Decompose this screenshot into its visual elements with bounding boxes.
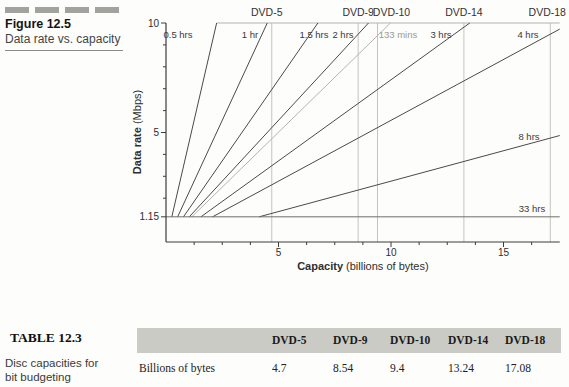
duration-label: 4 hrs bbox=[517, 29, 538, 40]
duration-label: 33 hrs bbox=[519, 203, 546, 214]
x-tick-label: 15 bbox=[498, 247, 510, 258]
duration-label: 2 hrs bbox=[332, 29, 353, 40]
y-tick-label: 1.15 bbox=[140, 211, 160, 222]
dvd-label: DVD-18 bbox=[529, 6, 567, 18]
duration-label: 3 hrs bbox=[430, 29, 451, 40]
table-cell: 13.24 bbox=[448, 362, 474, 374]
duration-label: 1.5 hrs bbox=[299, 29, 328, 40]
x-tick-label: 5 bbox=[276, 247, 282, 258]
table-column-header: DVD-9 bbox=[333, 328, 368, 353]
table-caption-line1: Disc capacities for bbox=[5, 356, 98, 370]
y-axis-title: Data rate (Mbps) bbox=[131, 90, 143, 174]
table-cell: 17.08 bbox=[505, 362, 531, 374]
duration-line bbox=[192, 23, 391, 217]
duration-lines bbox=[172, 23, 560, 217]
duration-line bbox=[172, 23, 217, 217]
table-cell: 8.54 bbox=[333, 362, 353, 374]
table-row: Billions of bytes4.78.549.413.2417.08 bbox=[137, 362, 561, 378]
x-ticks bbox=[194, 242, 532, 247]
y-tick-label: 10 bbox=[148, 18, 160, 29]
duration-line bbox=[259, 136, 560, 217]
table-column-header: DVD-14 bbox=[448, 328, 488, 353]
duration-label: 1 hr bbox=[242, 29, 258, 40]
duration-label: 8 hrs bbox=[518, 131, 539, 142]
x-tick-label: 10 bbox=[385, 247, 397, 258]
duration-line bbox=[201, 23, 470, 217]
table-column-header: DVD-10 bbox=[390, 328, 430, 353]
duration-line bbox=[178, 23, 268, 217]
table-label: TABLE 12.3 bbox=[10, 330, 82, 346]
duration-label: 0.5 hrs bbox=[163, 29, 192, 40]
table-row-header: Billions of bytes bbox=[139, 362, 215, 374]
data-rate-vs-capacity-chart: 510151051.15DVD-5DVD-9DVD-10DVD-14DVD-18… bbox=[0, 0, 569, 305]
table-cell: 9.4 bbox=[390, 362, 404, 374]
table-column-header: DVD-5 bbox=[272, 328, 307, 353]
y-tick-label: 5 bbox=[153, 127, 159, 138]
x-axis-title: Capacity (billions of bytes) bbox=[297, 260, 428, 272]
table-column-header: DVD-18 bbox=[505, 328, 545, 353]
duration-line bbox=[189, 23, 368, 217]
dvd-label: DVD-10 bbox=[373, 6, 411, 18]
duration-line bbox=[183, 23, 317, 217]
table-caption: Disc capacities for bit budgeting bbox=[5, 356, 98, 384]
duration-label: 133 mins bbox=[379, 29, 418, 40]
table-cell: 4.7 bbox=[272, 362, 286, 374]
dvd-label: DVD-14 bbox=[445, 6, 483, 18]
axes bbox=[166, 23, 560, 242]
dvd-label: DVD-9 bbox=[342, 6, 374, 18]
table-header-band: DVD-5DVD-9DVD-10DVD-14DVD-18 bbox=[137, 328, 561, 353]
dvd-label: DVD-5 bbox=[251, 6, 283, 18]
duration-line bbox=[213, 29, 560, 217]
dvd-marker-lines bbox=[272, 23, 551, 242]
y-ticks bbox=[161, 23, 166, 217]
table-caption-line2: bit budgeting bbox=[5, 370, 98, 384]
